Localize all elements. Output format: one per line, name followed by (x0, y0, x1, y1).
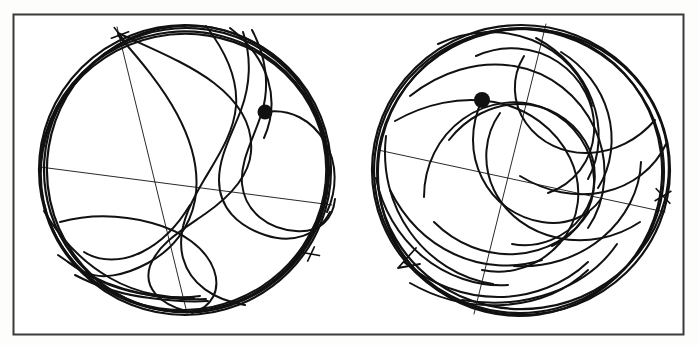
figure-root (0, 0, 699, 345)
figure-canvas (0, 0, 699, 345)
marker-dot-right (474, 92, 490, 108)
marker-dot-left (258, 105, 273, 120)
